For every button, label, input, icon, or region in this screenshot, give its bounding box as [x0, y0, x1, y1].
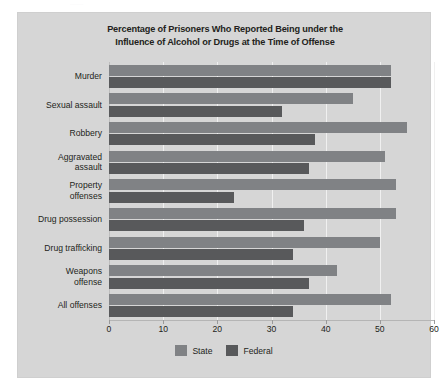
bar-federal — [109, 278, 309, 289]
chart-legend: StateFederal — [18, 345, 430, 356]
plot-area: MurderSexual assaultRobberyAggravatedass… — [109, 62, 434, 320]
gridline-60 — [434, 62, 435, 320]
bar-federal — [109, 220, 304, 231]
bar-group: Murder — [109, 62, 434, 91]
chart-title-line-1: Percentage of Prisoners Who Reported Bei… — [58, 23, 392, 36]
category-label: Drug trafficking — [0, 243, 109, 254]
legend-label: Federal — [243, 346, 272, 356]
legend-swatch-federal — [226, 345, 238, 356]
bar-federal — [109, 163, 309, 174]
chart-title: Percentage of Prisoners Who Reported Bei… — [58, 23, 392, 48]
legend-label: State — [192, 346, 212, 356]
bar-group: All offenses — [109, 291, 434, 320]
category-label: Aggravatedassault — [0, 152, 109, 173]
category-label-line: Property — [0, 180, 102, 191]
bar-state — [109, 237, 380, 248]
category-label-line: Weapons — [0, 266, 102, 277]
category-label-line: offenses — [0, 191, 102, 202]
screenshot-root: ........ Percentage of Prisoners Who Rep… — [0, 0, 448, 385]
category-label: Sexual assault — [0, 100, 109, 111]
x-tick-label: 20 — [202, 324, 232, 334]
bar-group: Aggravatedassault — [109, 148, 434, 177]
bar-federal — [109, 249, 293, 260]
bar-group: Sexual assault — [109, 91, 434, 120]
x-axis: 0102030405060 — [109, 320, 434, 336]
category-label: Weaponsoffense — [0, 266, 109, 287]
x-tick-label: 40 — [311, 324, 341, 334]
legend-item-federal[interactable]: Federal — [226, 345, 272, 356]
bar-state — [109, 265, 337, 276]
bar-group: Drug trafficking — [109, 234, 434, 263]
category-label: All offenses — [0, 300, 109, 311]
category-label: Drug possession — [0, 214, 109, 225]
x-tick-label: 50 — [365, 324, 395, 334]
category-label: Murder — [0, 71, 109, 82]
x-tick-label: 0 — [94, 324, 124, 334]
category-label-line: Drug possession — [0, 214, 102, 225]
bar-state — [109, 179, 396, 190]
category-label: Propertyoffenses — [0, 180, 109, 201]
bar-federal — [109, 106, 282, 117]
bar-federal — [109, 77, 391, 88]
category-label-line: Drug trafficking — [0, 243, 102, 254]
bar-state — [109, 122, 407, 133]
category-label: Robbery — [0, 128, 109, 139]
bar-state — [109, 93, 353, 104]
x-tick-label: 10 — [148, 324, 178, 334]
category-label-line: Sexual assault — [0, 100, 102, 111]
bar-group: Robbery — [109, 119, 434, 148]
bar-federal — [109, 306, 293, 317]
legend-item-state[interactable]: State — [175, 345, 212, 356]
category-label-line: offense — [0, 277, 102, 288]
cropped-page-artifact: ........ — [70, 0, 190, 7]
bar-state — [109, 151, 385, 162]
chart-panel: Percentage of Prisoners Who Reported Bei… — [17, 12, 431, 378]
bar-group: Drug possession — [109, 205, 434, 234]
x-tick-label: 30 — [257, 324, 287, 334]
bar-federal — [109, 192, 234, 203]
chart-title-line-2: Influence of Alcohol or Drugs at the Tim… — [58, 36, 392, 49]
bar-state — [109, 65, 391, 76]
bar-group: Weaponsoffense — [109, 263, 434, 292]
category-label-line: Robbery — [0, 128, 102, 139]
bar-federal — [109, 134, 315, 145]
x-tick-label: 60 — [419, 324, 448, 334]
category-label-line: All offenses — [0, 300, 102, 311]
bar-state — [109, 208, 396, 219]
category-label-line: Murder — [0, 71, 102, 82]
bar-group: Propertyoffenses — [109, 177, 434, 206]
bar-state — [109, 294, 391, 305]
legend-swatch-state — [175, 345, 187, 356]
category-label-line: assault — [0, 162, 102, 173]
category-label-line: Aggravated — [0, 152, 102, 163]
